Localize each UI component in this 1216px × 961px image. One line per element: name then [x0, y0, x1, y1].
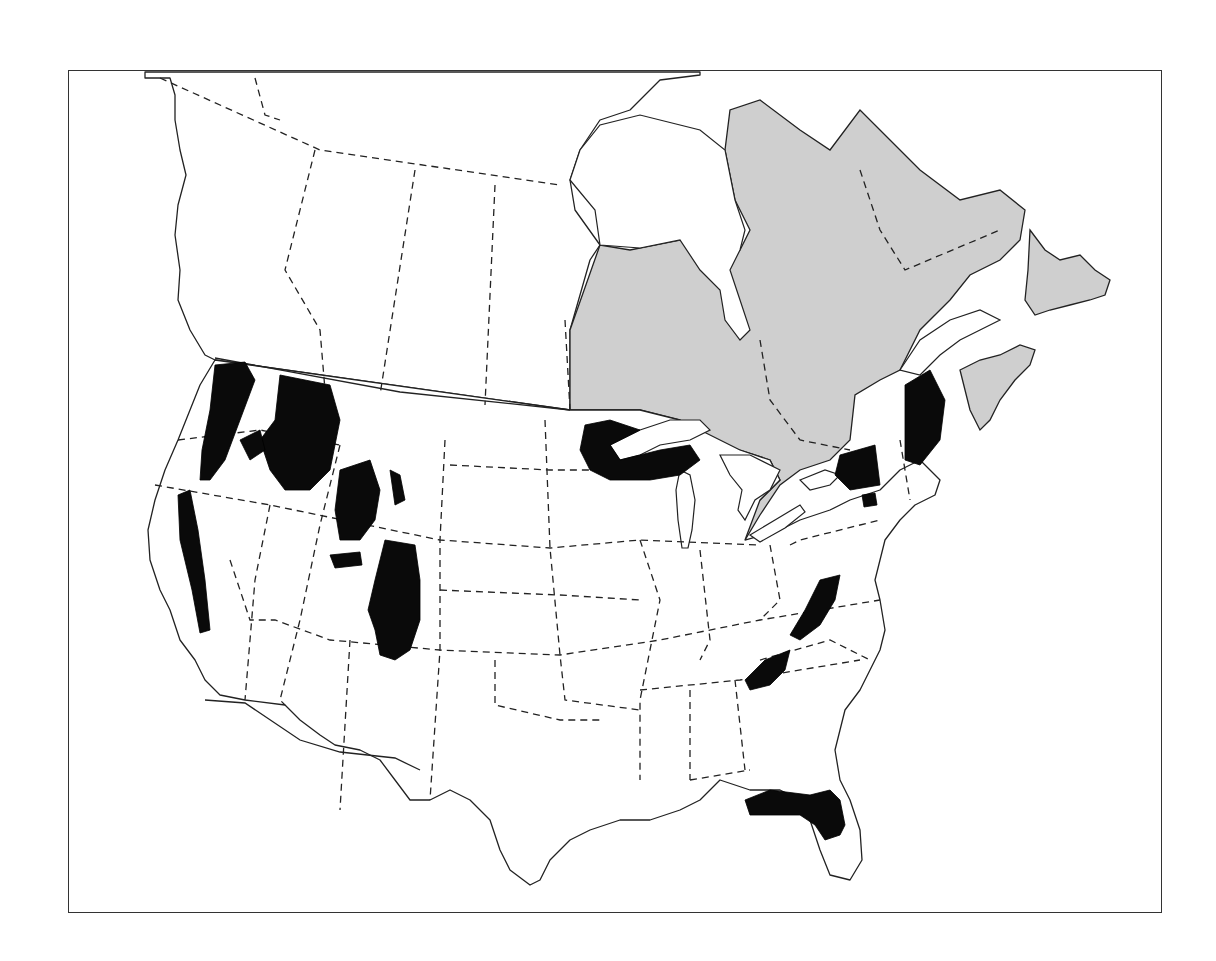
newfoundland	[1025, 230, 1110, 315]
range-catskills	[862, 493, 877, 507]
range-maine	[905, 370, 945, 465]
maritimes	[960, 345, 1035, 430]
range-adirondacks	[835, 445, 880, 490]
lake-ontario	[800, 470, 840, 490]
north-america-map	[0, 0, 1216, 961]
range-utah-uinta	[330, 552, 362, 568]
range-florida	[745, 790, 845, 840]
